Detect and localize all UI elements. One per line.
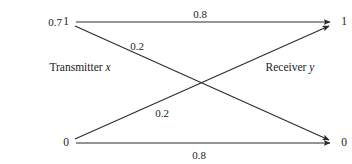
transmitter-variable: x (106, 61, 111, 73)
transmitter-node-1: 1 (63, 16, 69, 28)
edge-label-1-to-1: 0.8 (193, 9, 207, 20)
edge-label-0-to-0: 0.8 (192, 150, 206, 161)
receiver-side-label-text: Receiver (266, 61, 310, 73)
receiver-side-label: Receiver y (266, 62, 315, 74)
receiver-variable: y (309, 61, 314, 73)
edge-label-0-to-1: 0.2 (155, 108, 169, 119)
receiver-node-1: 1 (341, 16, 347, 28)
transmitter-side-label: Transmitter x (49, 62, 110, 74)
channel-diagram-figure: 0.7 1 0 1 0 0.8 0.2 0.2 0.8 Transmitter … (0, 0, 352, 164)
receiver-node-0: 0 (341, 137, 347, 149)
prior-probability-label: 0.7 (48, 17, 62, 28)
transmitter-node-0: 0 (63, 137, 69, 149)
transmitter-side-label-text: Transmitter (49, 61, 105, 73)
edge-label-1-to-0: 0.2 (130, 41, 144, 52)
